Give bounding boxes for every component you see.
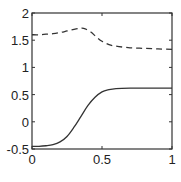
x-tick-label: 0.5 [93,152,111,167]
x-tick-label: 1 [168,152,175,167]
series-solid-line [32,88,172,146]
series-dashed-line [32,28,172,49]
y-tick-label: 1 [22,60,29,75]
y-tick-label: 0.5 [11,88,29,103]
y-tick-label: 2 [22,6,29,21]
y-tick-label: -0.5 [7,142,29,157]
line-chart: -0.500.511.52 00.51 [0,0,181,182]
x-axis-tick-labels: 00.51 [28,152,175,167]
plot-lines [32,28,172,146]
y-axis-tick-labels: -0.500.511.52 [7,6,29,157]
y-tick-label: 1.5 [11,33,29,48]
y-tick-label: 0 [22,115,29,130]
x-tick-label: 0 [28,152,35,167]
